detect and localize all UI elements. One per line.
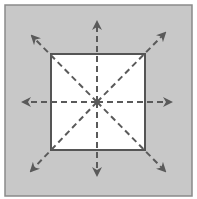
- expansion-diagram: [0, 0, 197, 199]
- center-point: [95, 100, 100, 105]
